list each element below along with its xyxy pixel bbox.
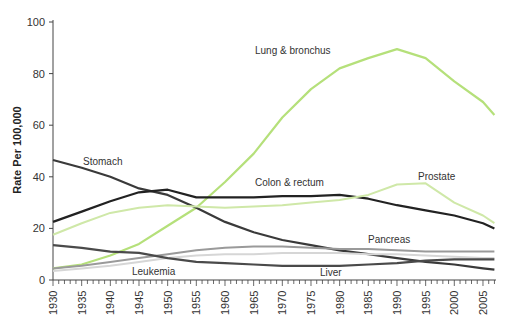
- x-tick-label: 1995: [420, 291, 432, 315]
- y-tick-label: 40: [33, 171, 45, 183]
- series-label: Prostate: [418, 171, 456, 182]
- x-tick-label: 1930: [47, 291, 59, 315]
- x-tick-label: 2005: [477, 291, 489, 315]
- x-tick-label: 1955: [190, 291, 202, 315]
- y-tick-label: 100: [27, 16, 45, 28]
- x-tick-label: 2000: [448, 291, 460, 315]
- x-tick-label: 1940: [104, 291, 116, 315]
- x-tick-label: 1990: [391, 291, 403, 315]
- y-axis-label: Rate Per 100,000: [11, 106, 23, 193]
- series-label: Liver: [320, 267, 342, 278]
- x-tick-label: 1945: [133, 291, 145, 315]
- x-tick-label: 1975: [305, 291, 317, 315]
- x-tick-label: 1970: [276, 291, 288, 315]
- series-label: Stomach: [83, 156, 122, 167]
- x-tick-label: 1980: [334, 291, 346, 315]
- x-tick-label: 1950: [162, 291, 174, 315]
- line-chart: 020406080100 193019351940194519501955196…: [0, 0, 506, 332]
- y-tick-label: 60: [33, 119, 45, 131]
- y-ticks: 020406080100: [27, 16, 53, 286]
- series-label: Leukemia: [132, 266, 176, 277]
- x-tick-label: 1985: [362, 291, 374, 315]
- series-label: Pancreas: [368, 234, 410, 245]
- series-label: Lung & bronchus: [255, 45, 331, 56]
- series-line-colon-rectum: [53, 190, 494, 229]
- x-tick-label: 1965: [248, 291, 260, 315]
- y-tick-label: 0: [39, 274, 45, 286]
- x-ticks: 1930193519401945195019551960196519701975…: [47, 280, 494, 315]
- y-tick-label: 80: [33, 68, 45, 80]
- y-tick-label: 20: [33, 222, 45, 234]
- x-tick-label: 1960: [219, 291, 231, 315]
- x-tick-label: 1935: [76, 291, 88, 315]
- series-label: Colon & rectum: [255, 177, 324, 188]
- series-line-prostate: [53, 183, 494, 235]
